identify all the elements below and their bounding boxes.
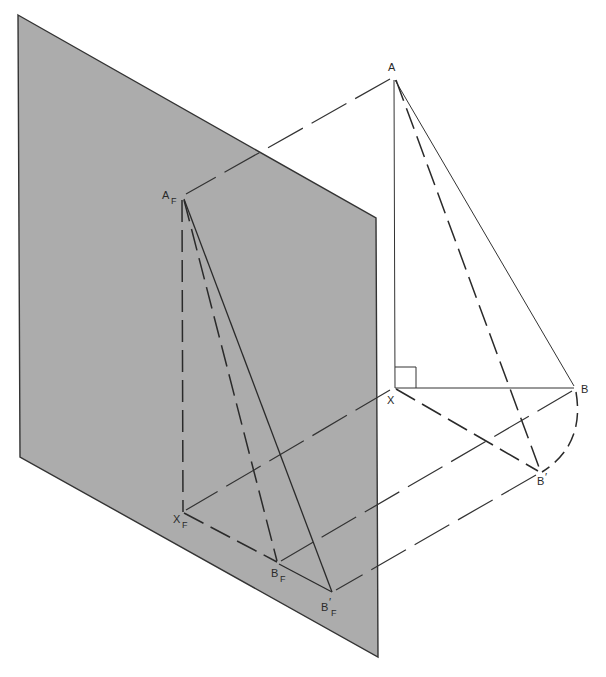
descriptive-geometry-diagram: A X B B ′ A F X F B F B ′ F [0,0,606,677]
edge-A-X [394,80,395,388]
space-triangle [394,80,578,472]
label-XF-sub: F [182,520,188,530]
label-BpF-sub: F [331,608,337,618]
label-Bprime: B [537,475,544,487]
edge-X-Bprime [396,389,538,471]
label-X: X [387,394,395,406]
label-BF-sub: F [280,574,286,584]
frontal-projection-plane [18,15,378,657]
right-angle-marker [395,367,416,388]
edge-A-B [395,80,574,386]
label-AF-sub: F [171,196,177,206]
label-Bprime-mark: ′ [545,471,547,483]
label-BpF-mark: ′ [329,596,331,608]
label-AF: A [162,189,170,201]
label-A: A [388,61,396,73]
label-B: B [581,383,588,395]
label-XF: X [173,513,181,525]
label-BF: B [271,567,278,579]
edge-A-Bprime [396,80,540,470]
revolution-arc-B-Bprime [542,392,578,472]
label-BpF: B [321,601,328,613]
